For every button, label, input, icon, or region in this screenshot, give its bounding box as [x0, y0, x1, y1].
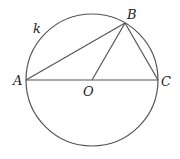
chord-BC — [125, 23, 158, 80]
label-A: A — [12, 73, 22, 88]
label-C: C — [161, 74, 171, 89]
label-O: O — [83, 84, 94, 99]
radius-OB — [92, 23, 125, 80]
label-B: B — [126, 7, 137, 22]
geometry-figure: k A B C O — [0, 0, 180, 159]
label-k: k — [33, 21, 41, 36]
